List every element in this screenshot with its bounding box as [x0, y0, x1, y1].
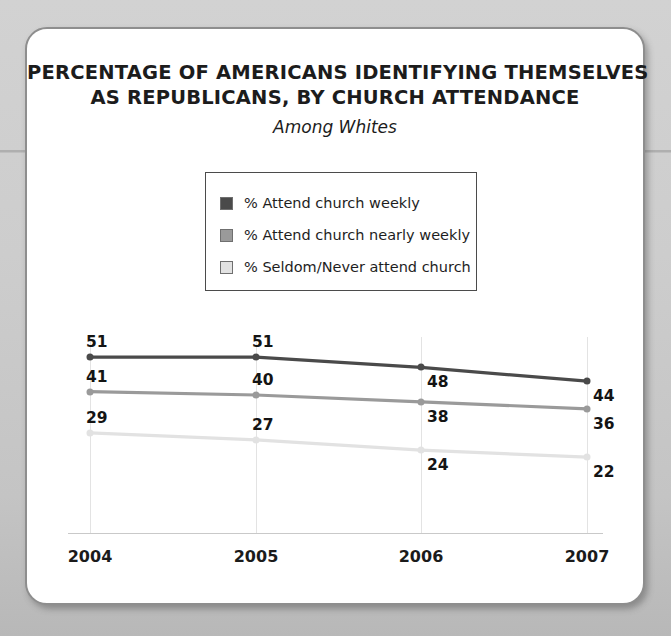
page-title-line-1: PERCENTAGE OF AMERICANS IDENTIFYING THEM…	[27, 60, 643, 85]
legend-item-label: % Attend church nearly weekly	[244, 227, 470, 243]
legend-item-label: % Seldom/Never attend church	[244, 259, 471, 275]
legend-item-label: % Attend church weekly	[244, 195, 420, 211]
legend-swatch-icon	[220, 197, 233, 210]
title-block: PERCENTAGE OF AMERICANS IDENTIFYING THEM…	[27, 60, 643, 137]
page-title-line-2: AS REPUBLICANS, BY CHURCH ATTENDANCE	[27, 85, 643, 110]
legend-item: % Attend church weekly	[220, 187, 476, 219]
chart-card: PERCENTAGE OF AMERICANS IDENTIFYING THEM…	[25, 27, 645, 605]
chart-legend: % Attend church weekly % Attend church n…	[205, 172, 477, 291]
page-background: PERCENTAGE OF AMERICANS IDENTIFYING THEM…	[0, 0, 671, 636]
legend-item: % Attend church nearly weekly	[220, 219, 476, 251]
legend-swatch-icon	[220, 229, 233, 242]
page-subtitle: Among Whites	[27, 117, 643, 137]
legend-swatch-icon	[220, 261, 233, 274]
legend-item: % Seldom/Never attend church	[220, 251, 476, 283]
